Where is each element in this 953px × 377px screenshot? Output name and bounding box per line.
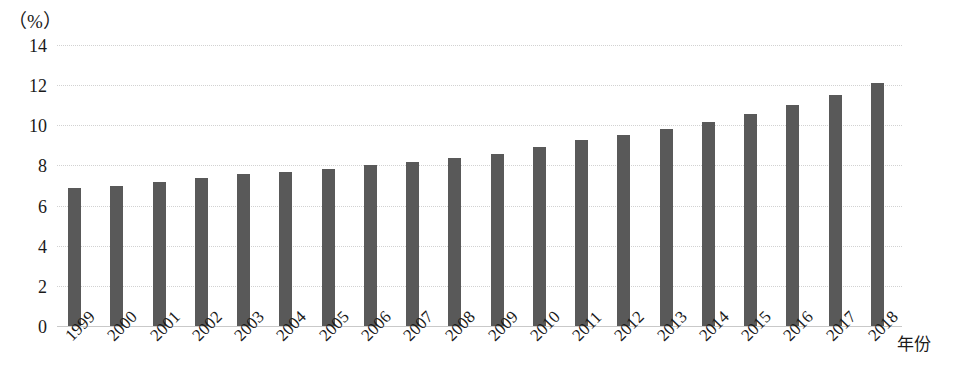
bar	[153, 182, 166, 327]
y-axis-unit-label: （%）	[8, 6, 62, 33]
bar-series	[57, 45, 902, 326]
bar-chart: （%） 14121086420 199920002001200220032004…	[0, 0, 953, 377]
bar	[110, 186, 123, 327]
y-axis-tick-label: 2	[38, 278, 47, 296]
plot-area: 14121086420	[57, 45, 902, 326]
bar	[702, 122, 715, 326]
bar	[617, 135, 630, 326]
bar	[533, 147, 546, 326]
y-axis-tick-label: 10	[29, 117, 47, 135]
bar	[744, 114, 757, 326]
bar	[237, 174, 250, 326]
bar	[491, 154, 504, 326]
y-axis-tick-label: 12	[29, 77, 47, 95]
y-axis-tick-label: 0	[38, 318, 47, 336]
bar	[406, 162, 419, 326]
bar	[322, 169, 335, 326]
x-axis-title: 年份	[897, 336, 931, 354]
bar	[195, 178, 208, 326]
bar	[829, 95, 842, 326]
y-axis-tick-label: 6	[38, 198, 47, 216]
bar	[660, 129, 673, 326]
bar	[279, 172, 292, 326]
y-axis-tick-label: 14	[29, 37, 47, 55]
y-axis-tick-label: 4	[38, 238, 47, 256]
x-axis-tick-labels: 1999200020012002200320042005200620072008…	[57, 326, 902, 377]
y-axis-tick-label: 8	[38, 157, 47, 175]
bar	[786, 105, 799, 326]
bar	[448, 158, 461, 326]
bar	[575, 140, 588, 326]
bar	[68, 188, 81, 326]
bar	[871, 83, 884, 326]
bar	[364, 165, 377, 326]
